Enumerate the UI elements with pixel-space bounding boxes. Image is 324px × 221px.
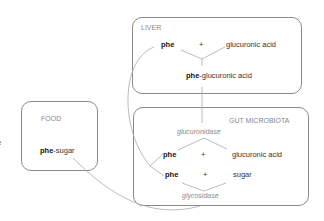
connector-lines	[0, 0, 324, 221]
